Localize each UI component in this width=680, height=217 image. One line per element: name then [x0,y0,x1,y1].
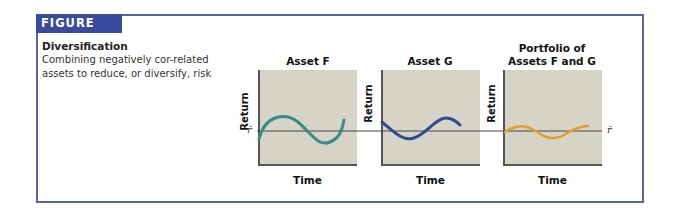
asset-f-curve [259,117,344,143]
portfolio-curve [505,126,588,138]
chart-curves [0,0,680,217]
asset-g-curve [382,118,460,139]
